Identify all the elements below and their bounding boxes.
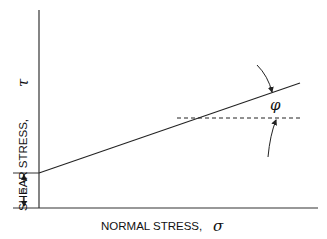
x-axis-label: NORMAL STRESS, [101,220,202,232]
y-axis-symbol: τ [14,78,32,87]
failure-envelope-line [39,83,300,173]
angle-arrow-upper-icon [257,65,272,92]
y-axis-label: SHEAR STRESS, [17,119,29,211]
x-axis-symbol: σ [213,217,224,235]
angle-phi-label: φ [270,96,281,114]
diagram-canvas: c φ SHEAR STRESS, τ NORMAL STRESS, σ [0,0,327,239]
angle-arrow-lower-icon [268,120,276,157]
